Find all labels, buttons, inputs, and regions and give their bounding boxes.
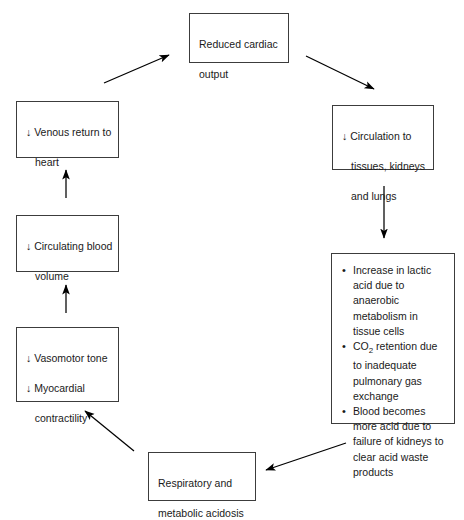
bullet-item-blood-acid: • Blood becomes more acid due to failure… xyxy=(353,404,446,480)
node-vasomotor-tone-myocardial-contractility: ↓ Vasomotor tone ↓ Myocardial contractil… xyxy=(16,327,119,402)
node-line: Reduced cardiac xyxy=(199,37,279,52)
node-line: ↓ Vasomotor tone xyxy=(26,351,109,366)
node-circulating-blood-volume: ↓ Circulating blood volume xyxy=(16,215,119,272)
node-line: metabolic acidosis xyxy=(158,506,246,520)
page-top-edge-artifact xyxy=(0,0,464,4)
node-line: contractility xyxy=(26,411,109,426)
node-line: ↓ Myocardial xyxy=(26,381,109,396)
node-line: tissues, kidneys xyxy=(342,159,424,174)
bullet-item-lactic-acid: • Increase in lactic acid due to anaerob… xyxy=(353,263,446,339)
node-line: volume xyxy=(26,269,109,284)
edge-venous-return-to-reduced-cardiac-output xyxy=(104,55,169,83)
node-line: ↓ Circulating blood xyxy=(26,239,109,254)
bullet-text: Increase in lactic acid due to anaerobic… xyxy=(353,264,431,337)
bullet-icon: • xyxy=(342,339,346,354)
node-line: and lungs xyxy=(342,189,424,204)
node-line: heart xyxy=(26,155,109,170)
node-line: output xyxy=(199,67,279,82)
node-line: Respiratory and xyxy=(158,476,246,491)
node-reduced-cardiac-output: Reduced cardiac output xyxy=(189,13,289,63)
node-line: ↓ Circulation to xyxy=(342,129,424,144)
edge-reduced-cardiac-output-to-circulation xyxy=(306,56,374,89)
node-respiratory-metabolic-acidosis: Respiratory and metabolic acidosis xyxy=(148,452,256,501)
node-venous-return-to-heart: ↓ Venous return to heart xyxy=(16,101,119,158)
bullet-item-co2-retention: • CO2 retention due to inadequate pulmon… xyxy=(353,339,446,404)
node-acid-base-effects: • Increase in lactic acid due to anaerob… xyxy=(331,253,455,424)
bullet-text-co2-prefix: CO xyxy=(353,340,369,352)
edge-acid-base-to-respiratory-acidosis xyxy=(266,443,346,470)
bullet-icon: • xyxy=(342,263,346,278)
bullet-text: Blood becomes more acid due to failure o… xyxy=(353,405,443,478)
node-circulation-to-tissues: ↓ Circulation to tissues, kidneys and lu… xyxy=(332,105,434,170)
bullet-icon: • xyxy=(342,404,346,419)
node-line: ↓ Venous return to xyxy=(26,125,109,140)
diagram-canvas: Reduced cardiac output ↓ Circulation to … xyxy=(0,0,464,520)
